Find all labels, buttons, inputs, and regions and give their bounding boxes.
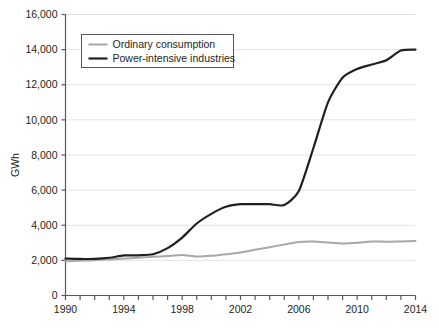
- x-tick-label: 1994: [112, 303, 136, 315]
- y-axis: [62, 15, 66, 296]
- y-axis-tick-labels: 02,0004,0006,0008,00010,00012,00014,0001…: [25, 8, 57, 301]
- x-tick-label: 2006: [287, 303, 311, 315]
- x-axis-tick-labels: 1990199419982002200620102014: [54, 303, 428, 315]
- y-tick-label: 14,000: [25, 43, 57, 55]
- x-tick-label: 2014: [404, 303, 428, 315]
- y-tick-label: 10,000: [25, 114, 57, 126]
- y-tick-label: 2,000: [31, 254, 57, 266]
- y-axis-title-text: GWh: [9, 153, 21, 177]
- legend: Ordinary consumptionPower-intensive indu…: [82, 35, 236, 68]
- legend-label-1: Power-intensive industries: [113, 52, 236, 64]
- y-tick-label: 0: [52, 289, 58, 301]
- y-tick-label: 8,000: [31, 149, 57, 161]
- y-tick-label: 16,000: [25, 8, 57, 20]
- line-chart: 02,0004,0006,0008,00010,00012,00014,0001…: [0, 0, 439, 330]
- x-tick-label: 2010: [345, 303, 369, 315]
- x-tick-label: 2002: [229, 303, 253, 315]
- chart-container: 02,0004,0006,0008,00010,00012,00014,0001…: [0, 0, 439, 330]
- y-axis-title: GWh: [9, 153, 21, 177]
- x-tick-label: 1990: [54, 303, 78, 315]
- series-line-0: [66, 241, 416, 261]
- y-tick-label: 12,000: [25, 78, 57, 90]
- x-tick-label: 1998: [170, 303, 194, 315]
- legend-label-0: Ordinary consumption: [113, 38, 216, 50]
- series-line-1: [66, 50, 416, 259]
- y-tick-label: 4,000: [31, 219, 57, 231]
- y-tick-label: 6,000: [31, 184, 57, 196]
- x-axis: [66, 296, 416, 301]
